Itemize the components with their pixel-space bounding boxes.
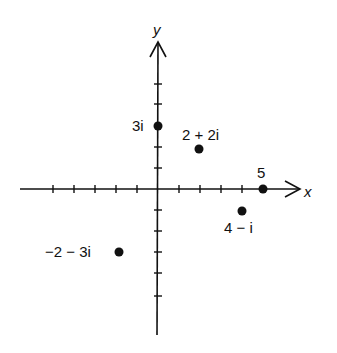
complex-plane-diagram: y x 3i 2 + 2i 5 4 − i −2 − 3i [0,0,337,353]
point-3i-label: 3i [132,117,144,134]
x-axis-label: x [303,183,312,200]
point-5 [259,185,268,194]
point-2-plus-2i [195,145,204,154]
point-4-minus-i [238,207,247,216]
point-neg2-minus-3i [115,248,124,257]
y-axis-label: y [152,21,162,38]
point-5-label: 5 [257,164,265,181]
point-2-plus-2i-label: 2 + 2i [182,126,219,143]
y-axis [157,42,158,335]
point-3i [154,122,163,131]
point-neg2-minus-3i-label: −2 − 3i [45,243,91,260]
point-4-minus-i-label: 4 − i [224,219,253,236]
